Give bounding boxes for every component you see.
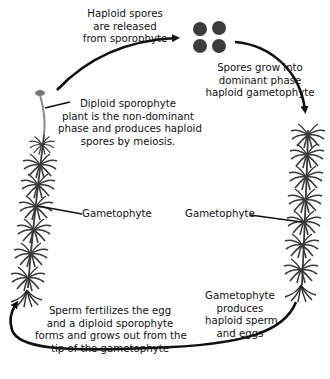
arrow-to-spores (57, 38, 176, 90)
label-gametophyte-right: Gametophyte (185, 208, 255, 221)
label-spores-released: Haploid spores are released from sporoph… (70, 8, 180, 46)
label-spores-grow: Spores grow into dominant phase haploid … (200, 62, 320, 100)
label-fertilization: Sperm fertilizes the egg and a diploid s… (35, 305, 185, 355)
label-gametes: Gametophyte produces haploid sperm and e… (205, 290, 275, 340)
label-gametophyte-left: Gametophyte (82, 208, 152, 221)
leader-gametophyte-right (250, 215, 302, 222)
right-moss-plant (284, 124, 325, 302)
spores-icon (193, 21, 226, 53)
label-sporophyte: Diploid sporophyte plant is the non-domi… (58, 98, 198, 148)
leader-gametophyte-left (38, 206, 82, 214)
left-moss-plant (11, 90, 57, 307)
